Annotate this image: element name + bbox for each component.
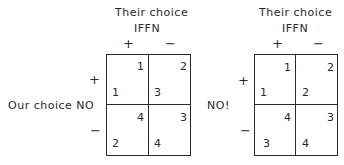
- left-cell-mm-their: 3: [180, 112, 188, 124]
- right-cell-mp-their: 4: [284, 112, 292, 124]
- left-cell-pm-our: 3: [154, 87, 162, 99]
- left-column-title: Their choice: [115, 7, 188, 19]
- left-col-plus: +: [123, 37, 134, 50]
- right-col-plus: +: [272, 37, 283, 50]
- right-cell-pp-their: 1: [284, 62, 292, 74]
- right-cell-pm-our: 2: [302, 87, 310, 99]
- left-row-minus: −: [90, 124, 101, 137]
- left-matrix-divider-h: [106, 104, 191, 105]
- right-cell-mm-our: 4: [302, 138, 310, 150]
- left-cell-mp-our: 2: [112, 138, 120, 150]
- left-column-subtitle: IFFN: [134, 23, 160, 35]
- right-cell-pm-their: 2: [327, 62, 335, 74]
- right-cell-mp-our: 3: [263, 138, 271, 150]
- left-cell-pp-our: 1: [112, 87, 120, 99]
- right-row-minus: −: [240, 124, 251, 137]
- right-row-plus: +: [238, 74, 249, 87]
- right-row-label: NO!: [207, 100, 230, 112]
- right-col-minus: −: [313, 37, 324, 50]
- left-cell-pm-their: 2: [180, 61, 188, 73]
- right-column-title: Their choice: [259, 7, 332, 19]
- left-cell-mm-our: 4: [154, 138, 162, 150]
- left-cell-pp-their: 1: [137, 61, 145, 73]
- left-row-label: Our choice NO: [8, 100, 94, 112]
- left-col-minus: −: [165, 37, 176, 50]
- right-cell-mm-their: 3: [327, 112, 335, 124]
- right-matrix-divider-h: [254, 104, 338, 105]
- left-cell-mp-their: 4: [137, 112, 145, 124]
- left-row-plus: +: [89, 73, 100, 86]
- right-cell-pp-our: 1: [260, 87, 268, 99]
- right-column-subtitle: IFFN: [282, 23, 308, 35]
